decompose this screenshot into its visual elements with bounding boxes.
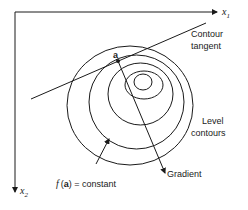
x2-axis-label: x2 bbox=[19, 185, 28, 199]
diagram-canvas: x1 x2 a Contour tangent Level contours G… bbox=[0, 0, 248, 210]
gradient-label: Gradient bbox=[167, 169, 202, 179]
level-contours bbox=[67, 46, 193, 165]
axes bbox=[15, 12, 217, 192]
contour-5 bbox=[134, 74, 152, 90]
f-constant-label: f(a) = constant bbox=[56, 178, 117, 189]
level-contours-label-line1: Level bbox=[202, 116, 224, 126]
contour-tangent-label-line1: Contour bbox=[191, 29, 223, 39]
contour-4 bbox=[125, 71, 163, 99]
f-constant-pointer-arrow bbox=[96, 139, 109, 164]
level-contours-label-line2: contours bbox=[191, 128, 226, 138]
contour-1 bbox=[67, 46, 193, 165]
contour-tangent-label-line2: tangent bbox=[191, 41, 222, 51]
gradient-arrow bbox=[118, 61, 165, 173]
contour-2 bbox=[89, 55, 184, 149]
x1-axis-label: x1 bbox=[221, 6, 230, 20]
